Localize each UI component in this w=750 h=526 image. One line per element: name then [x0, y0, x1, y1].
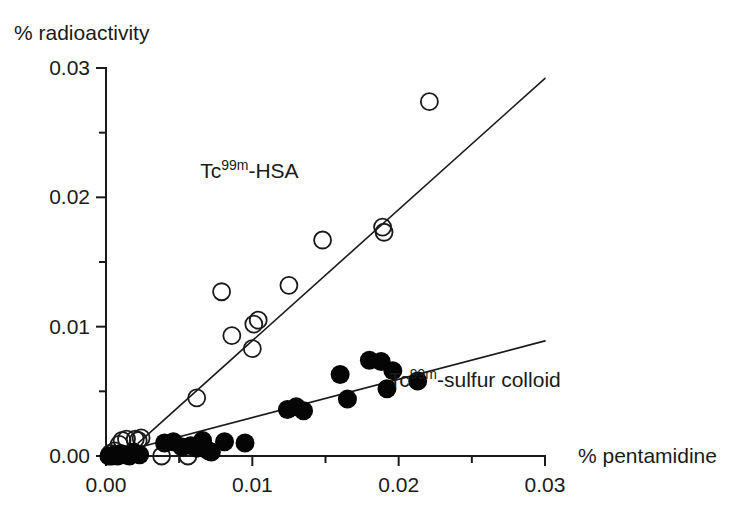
- plot-canvas: 0.000.010.020.03 0.000.010.020.03 % radi…: [0, 0, 750, 526]
- x-axis-group: 0.000.010.020.03: [86, 456, 566, 496]
- y-tick-label: 0.01: [49, 315, 90, 338]
- y-axis-group: 0.000.010.020.03: [49, 56, 106, 467]
- data-point-open: [280, 277, 297, 294]
- y-axis-ticks: [96, 68, 106, 456]
- data-point-filled: [331, 365, 350, 384]
- series-label-prefix: Tc: [200, 159, 221, 182]
- data-point-open: [314, 232, 331, 249]
- data-point-open: [245, 316, 262, 333]
- y-tick-label: 0.00: [49, 444, 90, 467]
- y-tick-label: 0.03: [49, 56, 90, 79]
- y-axis-title: % radioactivity: [14, 21, 150, 44]
- x-tick-label: 0.02: [378, 473, 419, 496]
- regression-lines: [106, 78, 545, 456]
- series-label-hsa: Tc99m-HSA: [200, 157, 298, 182]
- data-point-open: [223, 327, 240, 344]
- x-axis-title-text: % pentamidine: [578, 444, 717, 467]
- x-axis-title: % pentamidine: [578, 444, 717, 467]
- data-point-open: [244, 340, 261, 357]
- x-axis-ticks: [106, 456, 545, 466]
- data-point-open: [188, 389, 205, 406]
- data-point-filled: [338, 390, 357, 409]
- data-point-open: [250, 312, 267, 329]
- series-label-prefix: Tc: [389, 368, 410, 391]
- x-tick-label: 0.03: [525, 473, 566, 496]
- series-label-suffix: -HSA: [248, 159, 298, 182]
- data-point-filled: [215, 432, 234, 451]
- data-point-filled: [236, 434, 255, 453]
- data-points: [99, 93, 437, 465]
- data-point-filled: [130, 445, 149, 464]
- series-points-sulfur-colloid: [99, 351, 427, 466]
- series-label-superscript: 99m: [221, 157, 248, 173]
- y-axis-title-text: % radioactivity: [14, 21, 150, 44]
- x-axis-tick-labels: 0.000.010.020.03: [86, 473, 566, 496]
- data-point-filled: [294, 401, 313, 420]
- data-point-open: [213, 283, 230, 300]
- series-points-hsa: [102, 93, 438, 464]
- data-point-open: [421, 93, 438, 110]
- y-tick-label: 0.02: [49, 185, 90, 208]
- scatter-figure: 0.000.010.020.03 0.000.010.020.03 % radi…: [0, 0, 750, 526]
- series-label-suffix: -sulfur colloid: [437, 368, 561, 391]
- x-tick-label: 0.00: [86, 473, 127, 496]
- y-axis-tick-labels: 0.000.010.020.03: [49, 56, 90, 467]
- series-label-superscript: 99m: [410, 366, 437, 382]
- x-tick-label: 0.01: [232, 473, 273, 496]
